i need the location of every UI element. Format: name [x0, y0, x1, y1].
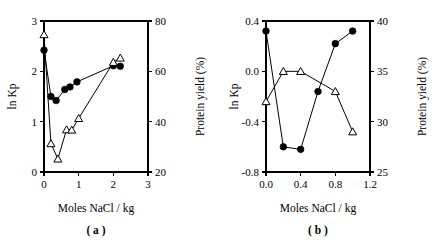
figure-container: 0123012320406080ln KpProtein yield (%)Mo…: [0, 0, 444, 247]
chart-svg: 0.00.40.81.2-0.8-0.40.00.425303540ln KpP…: [222, 0, 444, 247]
data-point-filled-circle: [41, 47, 48, 54]
y-axis-title-left: ln Kp: [228, 83, 241, 109]
x-axis-title: Moles NaCl / kg: [58, 202, 135, 215]
data-point-filled-circle: [349, 28, 356, 35]
axes-group: 0123012320406080: [32, 15, 167, 190]
x-axis-title: Moles NaCl / kg: [280, 202, 357, 215]
y-tick-label-right: 60: [155, 65, 167, 77]
y-tick-label-right: 40: [377, 15, 389, 27]
chart-panel-a: 0123012320406080ln KpProtein yield (%)Mo…: [0, 0, 222, 247]
y-tick-label-left: 0: [32, 166, 38, 178]
y-tick-label-right: 20: [155, 166, 167, 178]
data-point-filled-circle: [74, 79, 81, 86]
data-point-filled-circle: [117, 63, 124, 70]
y-axis-title-left: ln Kp: [6, 83, 19, 109]
series-line: [266, 71, 353, 131]
y-tick-label-right: 40: [155, 116, 167, 128]
data-point-open-triangle: [54, 155, 62, 162]
y-tick-label-left: 1: [32, 116, 38, 128]
y-tick-label-right: 30: [377, 116, 389, 128]
y-tick-label-left: 0.4: [245, 15, 259, 27]
x-tick-label: 0.8: [328, 178, 342, 190]
x-tick-label: 0.4: [294, 178, 308, 190]
data-point-open-triangle: [47, 140, 55, 147]
data-point-open-triangle: [331, 88, 339, 95]
data-point-open-triangle: [116, 54, 124, 61]
x-tick-label: 0.0: [259, 178, 273, 190]
y-tick-label-left: 0.0: [245, 65, 259, 77]
data-point-filled-circle: [297, 146, 304, 153]
data-point-open-triangle: [262, 98, 270, 105]
data-point-open-triangle: [109, 58, 117, 65]
data-point-open-triangle: [349, 128, 357, 135]
data-point-filled-circle: [53, 97, 60, 104]
series-lnkp: [41, 47, 124, 104]
y-tick-label-left: -0.4: [242, 116, 260, 128]
x-tick-label: 1.2: [363, 178, 377, 190]
data-point-filled-circle: [332, 40, 339, 47]
x-tick-label: 1: [76, 178, 82, 190]
data-point-filled-circle: [315, 88, 322, 95]
panel-caption: ( b ): [308, 224, 328, 237]
chart-svg: 0123012320406080ln KpProtein yield (%)Mo…: [0, 0, 222, 247]
y-tick-label-right: 35: [377, 65, 389, 77]
series-line: [266, 31, 353, 149]
y-axis-title-right: Protein yield (%): [416, 57, 429, 136]
panel-caption: ( a ): [86, 224, 105, 237]
series-line: [44, 50, 120, 100]
y-tick-label-left: 3: [32, 15, 38, 27]
chart-panel-b: 0.00.40.81.2-0.8-0.40.00.425303540ln KpP…: [222, 0, 444, 247]
data-point-open-triangle: [40, 31, 48, 38]
y-tick-label-right: 80: [155, 15, 167, 27]
x-tick-label: 2: [111, 178, 117, 190]
y-axis-title-right: Protein yield (%): [194, 57, 207, 136]
y-tick-label-right: 25: [377, 166, 389, 178]
data-point-filled-circle: [263, 28, 270, 35]
series-lnkp: [263, 28, 356, 153]
series-line: [44, 35, 120, 159]
data-point-filled-circle: [280, 144, 287, 151]
data-point-filled-circle: [67, 84, 74, 91]
data-point-open-triangle: [75, 114, 83, 121]
y-tick-label-left: -0.8: [242, 166, 260, 178]
x-tick-label: 3: [145, 178, 151, 190]
y-tick-label-left: 2: [32, 65, 38, 77]
x-tick-label: 0: [41, 178, 47, 190]
